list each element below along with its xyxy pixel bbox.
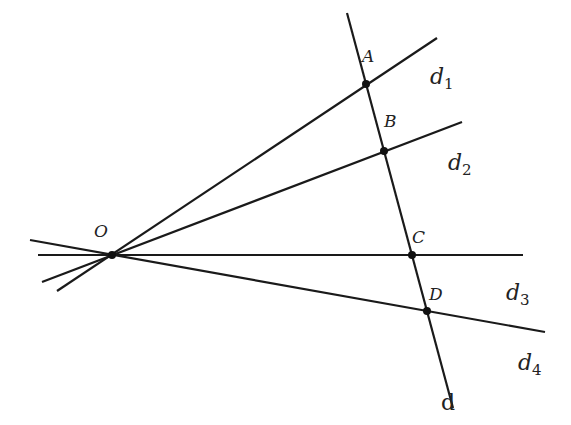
label-b: B (383, 111, 397, 131)
label-d: D (428, 284, 443, 304)
point-o (108, 251, 116, 259)
label-d2: d2 (448, 150, 472, 179)
point-c (408, 251, 416, 259)
geometry-diagram: O A B C D d1 d2 d3 d4 d (0, 0, 571, 425)
line-d2 (42, 122, 462, 282)
concurrent-lines (30, 38, 545, 332)
label-d4: d4 (518, 350, 542, 379)
label-o: O (94, 221, 108, 241)
point-b (380, 147, 388, 155)
point-d (423, 307, 431, 315)
label-transversal-d: d (441, 390, 455, 415)
point-a (362, 80, 370, 88)
label-c: C (412, 227, 425, 247)
line-d4 (30, 240, 545, 332)
label-d3: d3 (506, 280, 530, 309)
label-d1: d1 (430, 64, 454, 93)
label-a: A (360, 46, 374, 66)
